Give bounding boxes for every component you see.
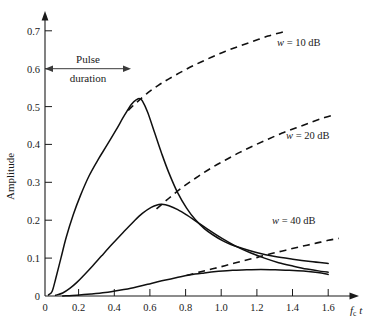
chart-page: 0 0.1 0.2 0.3 0.4 0.5 0.6 0.7 0 0.2 0.4 … <box>0 0 377 319</box>
series-label-40db: w = 40 dB <box>272 215 316 226</box>
curve-20db-dashed <box>157 115 334 209</box>
x-tick-label-0.2: 0.2 <box>72 302 85 313</box>
y-tick-label-0.3: 0.3 <box>27 177 40 188</box>
y-axis-arrowhead <box>42 11 49 21</box>
x-tick-label-1.2: 1.2 <box>250 302 263 313</box>
pulse-duration-label-line2: duration <box>70 72 107 84</box>
y-tick-label-0.4: 0.4 <box>27 139 41 150</box>
x-axis-title: fc t <box>350 304 363 318</box>
x-ticks-group <box>79 289 329 296</box>
pulse-duration-annotation: Pulse duration <box>45 53 131 84</box>
y-axis-title: Amplitude <box>4 153 16 200</box>
series-label-20db: w = 20 dB <box>286 130 330 141</box>
x-axis-arrowhead <box>350 293 360 300</box>
x-tick-label-0.8: 0.8 <box>179 302 192 313</box>
curves-group <box>49 31 339 296</box>
x-tick-label-0: 0 <box>42 302 47 313</box>
y-tick-label-0.6: 0.6 <box>27 64 40 75</box>
y-tick-label-0.7: 0.7 <box>27 26 40 37</box>
pulse-duration-arrowhead-right <box>123 65 131 72</box>
pulse-duration-label-line1: Pulse <box>76 53 100 65</box>
x-tick-label-0.4: 0.4 <box>108 302 122 313</box>
series-labels-group: w = 10 dB w = 20 dB w = 40 dB <box>272 37 330 226</box>
y-tick-label-0.2: 0.2 <box>27 215 40 226</box>
x-tick-label-1.4: 1.4 <box>286 302 300 313</box>
y-tick-label-0.1: 0.1 <box>27 253 40 264</box>
y-tick-label-0: 0 <box>35 291 40 302</box>
y-ticks-group <box>45 31 52 258</box>
curve-40db-solid <box>63 269 329 296</box>
amplitude-vs-fct-chart: 0 0.1 0.2 0.3 0.4 0.5 0.6 0.7 0 0.2 0.4 … <box>0 0 377 319</box>
y-tick-label-0.5: 0.5 <box>27 102 40 113</box>
x-tick-label-1.0: 1.0 <box>215 302 228 313</box>
x-tick-label-1.6: 1.6 <box>322 302 335 313</box>
y-tick-labels-group: 0 0.1 0.2 0.3 0.4 0.5 0.6 0.7 <box>27 26 41 302</box>
x-tick-labels-group: 0 0.2 0.4 0.6 0.8 1.0 1.2 1.4 1.6 <box>42 302 334 313</box>
series-label-10db: w = 10 dB <box>277 37 321 48</box>
x-tick-label-0.6: 0.6 <box>143 302 156 313</box>
curve-10db-solid <box>49 99 329 295</box>
pulse-duration-arrowhead-left <box>45 65 53 72</box>
curve-10db-dashed <box>128 31 287 111</box>
